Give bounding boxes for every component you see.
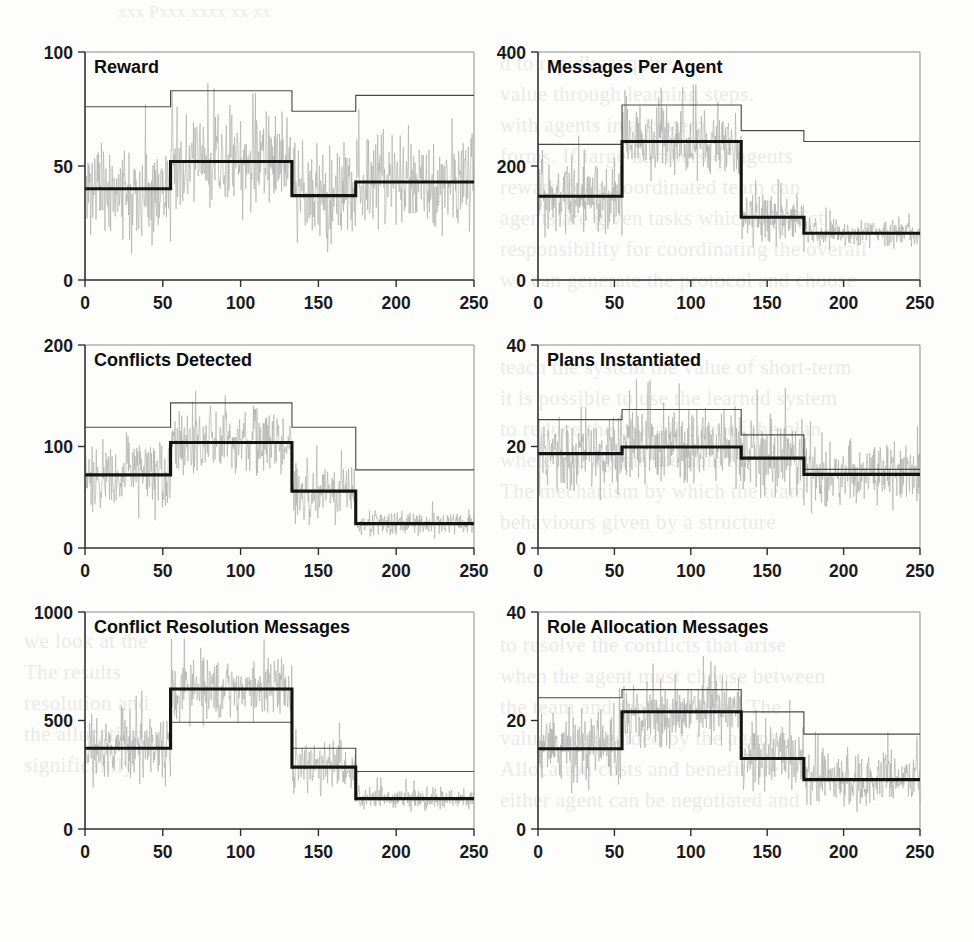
series-mean-thick-messages-per-agent (538, 141, 920, 233)
x-tick-label-100: 100 (226, 842, 255, 862)
x-tick-label-100: 100 (676, 293, 705, 313)
y-tick-label-0: 0 (516, 271, 526, 291)
chart-axes (538, 52, 920, 280)
series-raw-noise-conflict-resolution-messages (85, 639, 474, 812)
chart-panel-conflicts-detected: 0100200050100150200250Conflicts Detected (23, 331, 488, 594)
chart-canvas-plans-instantiated: 02040050100150200250Plans Instantiated (476, 331, 934, 594)
x-tick-label-200: 200 (382, 842, 411, 862)
x-tick-label-100: 100 (676, 561, 705, 581)
y-tick-label-0: 0 (63, 271, 73, 291)
y-tick-label-1000: 1000 (34, 603, 73, 623)
x-tick-label-0: 0 (533, 561, 543, 581)
x-tick-label-100: 100 (226, 561, 255, 581)
plot-frame (85, 345, 474, 548)
chart-axes (85, 52, 474, 280)
y-tick-label-200: 200 (497, 157, 526, 177)
series-raw-noise-messages-per-agent (538, 85, 920, 253)
chart-axes (85, 345, 474, 548)
y-tick-label-100: 100 (44, 437, 73, 457)
chart-canvas-role-allocation-messages: 02040050100150200250Role Allocation Mess… (476, 598, 934, 875)
series-mean-thick-conflicts-detected (85, 442, 474, 523)
x-tick-label-100: 100 (226, 293, 255, 313)
x-tick-label-0: 0 (80, 293, 90, 313)
x-tick-label-50: 50 (605, 842, 625, 862)
chart-panel-messages-per-agent: 0200400050100150200250Messages Per Agent (476, 38, 934, 326)
x-tick-label-250: 250 (905, 293, 934, 313)
chart-panel-conflict-resolution-messages: 05001000050100150200250Conflict Resoluti… (23, 598, 488, 875)
x-tick-label-200: 200 (382, 293, 411, 313)
plot-frame (538, 52, 920, 280)
x-tick-label-200: 200 (829, 561, 858, 581)
x-tick-label-200: 200 (382, 561, 411, 581)
y-tick-label-50: 50 (54, 157, 74, 177)
y-tick-label-100: 100 (44, 43, 73, 63)
y-tick-label-0: 0 (63, 820, 73, 840)
x-tick-label-0: 0 (533, 842, 543, 862)
x-tick-label-50: 50 (153, 293, 173, 313)
y-tick-label-400: 400 (497, 43, 526, 63)
y-tick-label-20: 20 (507, 711, 527, 731)
x-tick-label-50: 50 (153, 561, 173, 581)
y-tick-label-200: 200 (44, 336, 73, 356)
series-bound-thin-reward (85, 91, 474, 112)
y-tick-label-500: 500 (44, 711, 73, 731)
chart-title-reward: Reward (94, 57, 159, 77)
y-tick-label-0: 0 (516, 539, 526, 559)
chart-title-conflict-resolution-messages: Conflict Resolution Messages (94, 617, 350, 637)
x-tick-label-150: 150 (304, 293, 333, 313)
chart-panel-role-allocation-messages: 02040050100150200250Role Allocation Mess… (476, 598, 934, 875)
x-tick-label-150: 150 (753, 293, 782, 313)
x-tick-label-150: 150 (304, 561, 333, 581)
x-tick-label-50: 50 (153, 842, 173, 862)
chart-panel-reward: 050100050100150200250Reward (23, 38, 488, 326)
chart-canvas-messages-per-agent: 0200400050100150200250Messages Per Agent (476, 38, 934, 326)
y-tick-label-20: 20 (507, 437, 527, 457)
y-tick-label-40: 40 (507, 603, 527, 623)
chart-canvas-conflict-resolution-messages: 05001000050100150200250Conflict Resoluti… (23, 598, 488, 875)
x-tick-label-150: 150 (304, 842, 333, 862)
x-tick-label-200: 200 (829, 842, 858, 862)
x-tick-label-50: 50 (605, 561, 625, 581)
x-tick-label-250: 250 (905, 561, 934, 581)
x-tick-label-0: 0 (533, 293, 543, 313)
chart-panel-plans-instantiated: 02040050100150200250Plans Instantiated (476, 331, 934, 594)
x-tick-label-250: 250 (905, 842, 934, 862)
chart-title-plans-instantiated: Plans Instantiated (547, 350, 701, 370)
series-raw-noise-conflicts-detected (85, 391, 474, 539)
chart-title-role-allocation-messages: Role Allocation Messages (547, 617, 768, 637)
figure-panel-grid: 050100050100150200250Reward0200400050100… (0, 0, 974, 942)
x-tick-label-150: 150 (753, 842, 782, 862)
x-tick-label-100: 100 (676, 842, 705, 862)
chart-canvas-conflicts-detected: 0100200050100150200250Conflicts Detected (23, 331, 488, 594)
y-tick-label-0: 0 (63, 539, 73, 559)
chart-canvas-reward: 050100050100150200250Reward (23, 38, 488, 326)
x-tick-label-150: 150 (753, 561, 782, 581)
y-tick-label-40: 40 (507, 336, 527, 356)
plot-frame (85, 52, 474, 280)
series-raw-noise-reward (85, 83, 474, 253)
x-tick-label-50: 50 (605, 293, 625, 313)
x-tick-label-200: 200 (829, 293, 858, 313)
series-bound-thin-conflicts-detected (85, 403, 474, 470)
x-tick-label-0: 0 (80, 561, 90, 581)
plot-frame (538, 612, 920, 829)
y-tick-label-0: 0 (516, 820, 526, 840)
chart-title-conflicts-detected: Conflicts Detected (94, 350, 252, 370)
x-tick-label-0: 0 (80, 842, 90, 862)
chart-axes (538, 612, 920, 829)
chart-title-messages-per-agent: Messages Per Agent (547, 57, 722, 77)
series-mean-thick-conflict-resolution-messages (85, 689, 474, 799)
